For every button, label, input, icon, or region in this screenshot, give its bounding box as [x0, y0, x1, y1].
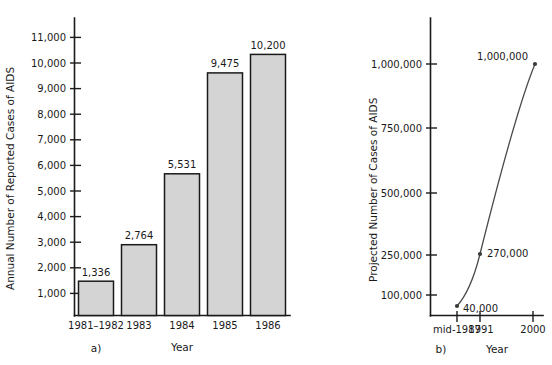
aids-cases-figure: 11,000 10,000 9,000 8,000 7,000 6,000 5,… [0, 0, 552, 365]
projection-curve [457, 64, 535, 306]
y-tick-label: 2,000 [37, 262, 66, 273]
y-tick-label: 750,000 [381, 123, 422, 134]
x-tick-label: 1985 [212, 320, 237, 331]
figure-container: 11,000 10,000 9,000 8,000 7,000 6,000 5,… [0, 0, 552, 365]
point-value-label: 40,000 [463, 303, 498, 314]
point-value-label: 270,000 [487, 248, 528, 259]
panel-a-x-tick-labels: 1981–1982 1983 1984 1985 1986 [68, 320, 281, 331]
y-tick-label: 3,000 [37, 237, 66, 248]
y-tick-label: 1,000,000 [371, 59, 422, 70]
bar-1983[interactable] [122, 245, 157, 316]
panel-b-value-labels: 40,000 270,000 1,000,000 [463, 51, 528, 314]
bar-1981-1982[interactable] [79, 281, 114, 315]
y-tick-label: 7,000 [37, 134, 66, 145]
y-tick-label: 9,000 [37, 83, 66, 94]
bar-1984[interactable] [165, 174, 200, 316]
panel-a: 11,000 10,000 9,000 8,000 7,000 6,000 5,… [4, 18, 290, 354]
panel-b: 1,000,000 750,000 500,000 250,000 100,00… [367, 18, 546, 355]
y-tick-label: 6,000 [37, 160, 66, 171]
bar-1985[interactable] [208, 73, 243, 316]
bar-value-label: 1,336 [82, 267, 111, 278]
panel-a-y-ticks [70, 37, 81, 293]
x-tick-label: 1983 [126, 320, 151, 331]
panel-b-x-axis-title: Year [485, 343, 509, 355]
y-tick-label: 4,000 [37, 211, 66, 222]
y-tick-label: 10,000 [31, 58, 66, 69]
data-point-1991[interactable] [478, 252, 482, 256]
y-tick-label: 8,000 [37, 109, 66, 120]
panel-b-y-axis-title: Projected Number of Cases of AIDS [367, 97, 379, 282]
data-point-2000[interactable] [533, 62, 537, 66]
panel-b-x-tick-labels: mid-1987 1991 2000 [433, 324, 546, 335]
y-tick-label: 500,000 [381, 188, 422, 199]
y-tick-label: 11,000 [31, 32, 66, 43]
panel-a-x-axis-title: Year [170, 341, 194, 353]
x-tick-label: 2000 [520, 324, 545, 335]
bar-value-label: 10,200 [251, 40, 286, 51]
panel-a-y-axis-title: Annual Number of Reported Cases of AIDS [4, 67, 16, 290]
y-tick-label: 1,000 [37, 288, 66, 299]
panel-b-label: b) [436, 343, 447, 355]
x-tick-label: 1981–1982 [68, 320, 124, 331]
panel-a-y-tick-labels: 11,000 10,000 9,000 8,000 7,000 6,000 5,… [31, 32, 66, 299]
y-tick-label: 100,000 [381, 290, 422, 301]
data-point-mid-1987[interactable] [455, 304, 459, 308]
x-tick-label: 1984 [169, 320, 194, 331]
bar-value-label: 2,764 [125, 230, 154, 241]
y-tick-label: 5,000 [37, 186, 66, 197]
x-tick-label: 1986 [255, 320, 280, 331]
point-value-label: 1,000,000 [477, 51, 528, 62]
bar-value-label: 5,531 [168, 159, 197, 170]
x-tick-label: 1991 [468, 324, 493, 335]
panel-b-y-ticks [426, 64, 437, 295]
bar-value-label: 9,475 [211, 58, 240, 69]
bar-1986[interactable] [251, 54, 286, 315]
panel-a-label: a) [91, 342, 102, 354]
y-tick-label: 250,000 [381, 250, 422, 261]
panel-b-data-points [455, 62, 537, 308]
